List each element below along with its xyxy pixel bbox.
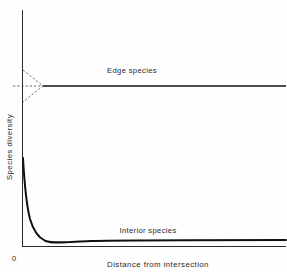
edge-species-label: Edge species <box>107 66 157 75</box>
figure-container: Edge species Interior species 0 Species … <box>0 0 287 272</box>
x-axis-title: Distance from intersection <box>107 260 209 269</box>
x-axis-origin-tick: 0 <box>12 254 16 263</box>
interior-species-label: Interior species <box>119 226 176 235</box>
species-diversity-chart: Edge species Interior species 0 Species … <box>0 0 287 272</box>
y-axis-title: Species diversity <box>5 114 14 180</box>
